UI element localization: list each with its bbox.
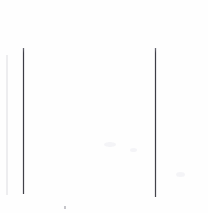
- left-vertical-rule: [23, 48, 24, 194]
- page-text-area: [25, 50, 154, 194]
- right-vertical-rule: [155, 48, 156, 197]
- scanned-page-canvas: [0, 0, 208, 213]
- left-edge-smudge-artifact: [6, 55, 8, 195]
- scanner-speck-artifact: [64, 206, 66, 209]
- paper-mottle: [176, 172, 185, 177]
